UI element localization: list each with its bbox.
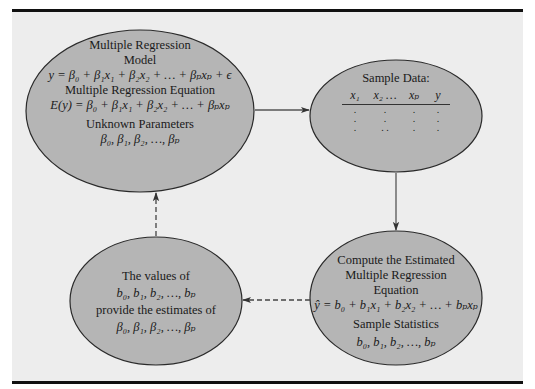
sample-title: Sample Data:: [316, 71, 476, 86]
estimates-line2: b₀, b₁, b₂, …, bₚ: [72, 285, 240, 302]
node-estimates: The values of b₀, b₁, b₂, …, bₚ provide …: [72, 268, 240, 336]
column-header: xₚ: [402, 88, 426, 105]
sample-statistics-title: Sample Statistics: [312, 317, 480, 332]
compute-title-line3: Equation: [312, 283, 480, 298]
node-model: Multiple Regression Model y = β₀ + β₁x₁ …: [36, 38, 244, 147]
unknown-params: β₀, β₁, β₂, …, βₚ: [36, 132, 244, 147]
table-cell: .: [342, 123, 368, 132]
compute-title-line2: Multiple Regression: [312, 268, 480, 283]
table-cell: .: [426, 123, 450, 132]
estimated-equation: ŷ = b₀ + b₁x₁ + b₂x₂ + … + bₚxₚ: [312, 298, 480, 313]
node-compute: Compute the Estimated Multiple Regressio…: [312, 253, 480, 350]
compute-title-line1: Compute the Estimated: [312, 253, 480, 268]
node-sample: Sample Data: x₁ x₂ … xₚ y . . . . . . . …: [316, 71, 476, 132]
model-title-line2: Model: [36, 53, 244, 68]
column-header: x₁: [342, 88, 368, 105]
expected-value-equation: E(y) = β₀ + β₁x₁ + β₂x₂ + … + βₚxₚ: [36, 98, 244, 113]
unknown-params-title: Unknown Parameters: [36, 117, 244, 132]
estimates-line4: β₀, β₁, β₂, …, βₚ: [72, 319, 240, 336]
equation-title: Multiple Regression Equation: [36, 83, 244, 98]
column-header: y: [426, 88, 450, 105]
table-cell: .: [402, 123, 426, 132]
estimates-line1: The values of: [72, 268, 240, 285]
sample-statistics: b₀, b₁, b₂, …, bₚ: [312, 335, 480, 350]
estimates-line3: provide the estimates of: [72, 302, 240, 319]
model-equation: y = β₀ + β₁x₁ + β₂x₂ + … + βₚxₚ + ϵ: [36, 68, 244, 83]
column-header: x₂ …: [368, 88, 402, 105]
model-title-line1: Multiple Regression: [36, 38, 244, 53]
table-cell: . .: [368, 123, 402, 132]
sample-data-table: x₁ x₂ … xₚ y . . . . . . . . . . . . .: [316, 88, 476, 132]
